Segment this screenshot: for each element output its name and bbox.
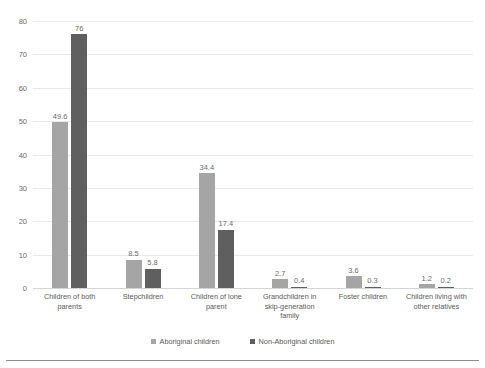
bar-slot: 34.4 [199, 21, 215, 288]
bar-value-label: 76 [75, 25, 83, 33]
y-axis-tick-40: 40 [19, 150, 27, 159]
category-label: Foster children [321, 292, 405, 302]
y-axis-tick-70: 70 [19, 50, 27, 59]
y-axis-tick-60: 60 [19, 83, 27, 92]
bar-slot: 1.2 [419, 21, 435, 288]
bar-slot: 2.7 [272, 21, 288, 288]
bar-chart: 0102030405060708049.6768.55.834.417.42.7… [0, 0, 485, 368]
category-label: Stepchildren [101, 292, 185, 302]
footer-divider [6, 360, 479, 361]
bar-group: 2.70.4 [253, 21, 327, 288]
bar-group: 49.676 [33, 21, 107, 288]
bar-group-bars: 8.55.8 [106, 21, 180, 288]
category-label-line: Children living with [394, 292, 478, 302]
category-label: Children of bothparents [28, 292, 112, 311]
bar[interactable] [419, 284, 435, 288]
chart-legend: Aboriginal childrenNon-Aboriginal childr… [0, 337, 485, 346]
bar[interactable] [291, 287, 307, 288]
category-label-line: Foster children [321, 292, 405, 302]
bar[interactable] [52, 122, 68, 288]
bar-value-label: 3.6 [348, 267, 358, 275]
bar-value-label: 49.6 [53, 113, 68, 121]
bar-value-label: 2.7 [275, 270, 285, 278]
axis-baseline [33, 288, 473, 289]
bar-slot: 8.5 [126, 21, 142, 288]
category-label-line: Stepchildren [101, 292, 185, 302]
bar[interactable] [365, 287, 381, 288]
bar[interactable] [126, 260, 142, 288]
bar-slot: 3.6 [346, 21, 362, 288]
bar-group-bars: 3.60.3 [326, 21, 400, 288]
y-axis-tick-80: 80 [19, 17, 27, 26]
bar-value-label: 8.5 [128, 250, 138, 258]
bar-value-label: 1.2 [422, 275, 432, 283]
category-label-line: parent [174, 302, 258, 312]
category-label-line: Children of both [28, 292, 112, 302]
category-label-line: other relatives [394, 302, 478, 312]
legend-swatch-icon [250, 339, 255, 344]
bar-group: 3.60.3 [326, 21, 400, 288]
bar[interactable] [438, 287, 454, 288]
bar-slot: 49.6 [52, 21, 68, 288]
bar[interactable] [272, 279, 288, 288]
bar-slot: 0.3 [365, 21, 381, 288]
legend-swatch-icon [151, 339, 156, 344]
bar-slot: 0.2 [438, 21, 454, 288]
legend-item[interactable]: Non-Aboriginal children [250, 337, 335, 346]
bar[interactable] [71, 34, 87, 288]
bar-group-bars: 34.417.4 [179, 21, 253, 288]
category-label: Grandchildren inskip-generationfamily [248, 292, 332, 321]
legend-label: Non-Aboriginal children [259, 337, 335, 346]
y-axis-tick-10: 10 [19, 250, 27, 259]
category-label-line: family [248, 311, 332, 321]
plot-area: 0102030405060708049.6768.55.834.417.42.7… [33, 21, 473, 288]
bar[interactable] [218, 230, 234, 288]
bar-value-label: 34.4 [200, 164, 215, 172]
bar-group: 1.20.2 [399, 21, 473, 288]
category-label: Children of loneparent [174, 292, 258, 311]
y-axis-tick-0: 0 [23, 284, 27, 293]
bar[interactable] [346, 276, 362, 288]
bar-slot: 76 [71, 21, 87, 288]
category-label-line: parents [28, 302, 112, 312]
bar-group: 34.417.4 [179, 21, 253, 288]
bar-value-label: 0.4 [294, 277, 304, 285]
bar-group-bars: 2.70.4 [253, 21, 327, 288]
bar-value-label: 5.8 [147, 259, 157, 267]
legend-label: Aboriginal children [160, 337, 220, 346]
legend-item[interactable]: Aboriginal children [151, 337, 220, 346]
category-label: Children living withother relatives [394, 292, 478, 311]
category-label-line: Children of lone [174, 292, 258, 302]
category-label-line: skip-generation [248, 302, 332, 312]
bar-group: 8.55.8 [106, 21, 180, 288]
y-axis-tick-20: 20 [19, 217, 27, 226]
y-axis-tick-50: 50 [19, 117, 27, 126]
bar-value-label: 0.2 [441, 277, 451, 285]
bar-group-bars: 49.676 [33, 21, 107, 288]
bar-value-label: 17.4 [219, 220, 234, 228]
bar[interactable] [145, 269, 161, 288]
bar-slot: 5.8 [145, 21, 161, 288]
bar-value-label: 0.3 [367, 277, 377, 285]
category-label-line: Grandchildren in [248, 292, 332, 302]
bar-group-bars: 1.20.2 [399, 21, 473, 288]
bar-slot: 17.4 [218, 21, 234, 288]
bar[interactable] [199, 173, 215, 288]
y-axis-tick-30: 30 [19, 183, 27, 192]
bar-slot: 0.4 [291, 21, 307, 288]
